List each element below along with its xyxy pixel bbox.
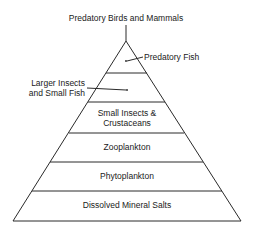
level-zooplankton-label: Zooplankton	[104, 142, 151, 152]
level-mineral-salts-label: Dissolved Mineral Salts	[83, 200, 171, 210]
larger-insects-dot	[126, 89, 128, 91]
predatory-fish-dot	[125, 60, 127, 62]
level-larger-insects-label-line2: and Small Fish	[29, 88, 85, 98]
level-small-insects-label-line2: Crustaceans	[103, 118, 151, 128]
level-larger-insects-label-line1: Larger Insects	[31, 78, 85, 88]
food-pyramid-diagram: Predatory Birds and Mammals Predatory Fi…	[0, 0, 254, 232]
level-predatory-fish-label: Predatory Fish	[144, 52, 200, 62]
larger-insects-leader	[87, 88, 126, 90]
level-phytoplankton-label: Phytoplankton	[100, 171, 154, 181]
predatory-fish-leader	[127, 57, 143, 61]
level-small-insects-label-line1: Small Insects &	[98, 108, 157, 118]
top-label: Predatory Birds and Mammals	[69, 13, 183, 23]
pyramid-outline	[13, 41, 241, 221]
